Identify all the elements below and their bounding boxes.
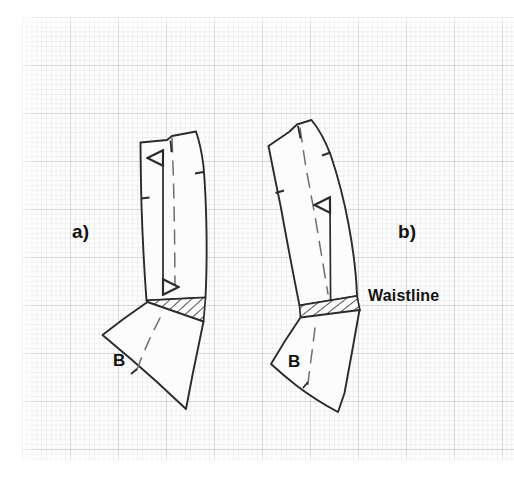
panel-a-lower-notch <box>131 369 137 374</box>
panel-b-piece-b-label: B <box>288 353 300 370</box>
panel-b-lower-piece-B <box>271 310 360 412</box>
panel-a-top-notch <box>171 141 172 153</box>
panel-a-piece-b-label: B <box>113 352 125 369</box>
panel-b-label: b) <box>398 222 416 241</box>
panel-b-upper-piece <box>269 120 358 306</box>
panel-a-label: a) <box>72 222 89 241</box>
panel-b-pattern <box>269 120 361 412</box>
diagram-canvas: a) b) Waistline B B <box>0 0 514 477</box>
panel-a-notch-left <box>141 198 150 199</box>
waistline-annotation: Waistline <box>368 288 439 304</box>
